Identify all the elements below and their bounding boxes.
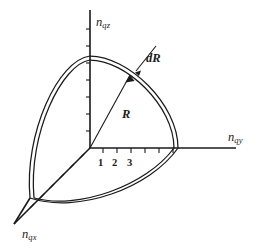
shell-arc-zx-plane — [29, 56, 90, 198]
radius-label: R — [122, 108, 130, 121]
radius-arrowhead — [126, 75, 135, 83]
diagram-canvas — [0, 0, 263, 250]
tick-label-1: 1 — [98, 158, 103, 169]
axis-label-nqz: nqz — [96, 16, 110, 30]
axis-label-nqy: nqy — [228, 131, 243, 145]
tick-label-3: 3 — [127, 158, 132, 169]
shell-arc-xy-plane — [30, 148, 178, 203]
axis-label-nqy-sub: qy — [234, 135, 242, 145]
axis-label-nqx: nqx — [22, 228, 37, 242]
figure-container: nqz nqy nqx R dR 1 2 3 — [0, 0, 263, 250]
tick-label-2: 2 — [112, 158, 117, 169]
shell-thickness-label: dR — [146, 52, 161, 65]
shell-arc-zy-plane — [90, 56, 178, 148]
axis-label-nqz-sub: qz — [102, 20, 110, 30]
axis-label-nqx-sub: qx — [28, 232, 36, 242]
